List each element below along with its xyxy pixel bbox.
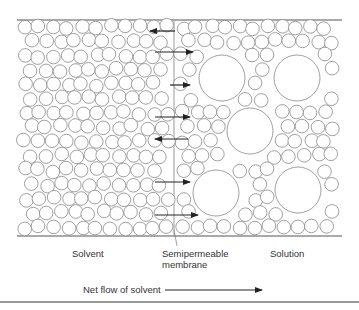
solvent-molecule <box>102 47 116 61</box>
solvent-molecule <box>119 222 133 236</box>
solvent-molecule <box>139 150 153 164</box>
solvent-molecule <box>289 21 303 35</box>
solvent-molecule <box>325 178 339 192</box>
solute-particle <box>199 55 245 101</box>
solvent-molecule <box>31 51 45 65</box>
solvent-molecule <box>191 161 205 175</box>
solvent-molecule <box>183 63 197 77</box>
solvent-molecule <box>70 150 84 164</box>
solvent-molecule <box>290 105 304 119</box>
solvent-molecule <box>233 164 247 178</box>
solvent-molecule <box>282 34 296 48</box>
membrane-label-line2: membrane <box>162 259 207 270</box>
solvent-molecule <box>124 62 138 76</box>
solvent-molecule <box>255 35 269 49</box>
solvent-molecule <box>69 64 83 78</box>
solvent-molecule <box>19 49 33 63</box>
solvent-molecule <box>45 134 59 148</box>
solvent-molecule <box>59 161 73 175</box>
solvent-molecule <box>188 135 202 149</box>
solvent-molecule <box>39 206 53 220</box>
solvent-molecule <box>318 165 332 179</box>
solvent-molecule <box>195 149 209 163</box>
solvent-molecule <box>97 177 111 191</box>
solvent-molecule <box>31 19 45 33</box>
solvent-molecule <box>39 64 53 78</box>
solvent-molecule <box>217 105 231 119</box>
solvent-molecule <box>96 121 110 135</box>
solvent-molecule <box>182 205 196 219</box>
solvent-molecule <box>174 77 188 91</box>
solvent-molecule <box>239 208 253 222</box>
solvent-molecule <box>233 221 247 235</box>
solvent-molecule <box>105 192 119 206</box>
solvent-molecule <box>291 220 305 234</box>
solvent-molecule <box>134 193 148 207</box>
solvent-molecule <box>204 134 218 148</box>
net-flow-label: Net flow of solvent <box>83 284 161 295</box>
solvent-molecule <box>55 35 69 49</box>
solvent-molecule <box>23 64 37 78</box>
solvent-molecule <box>60 106 74 120</box>
solvent-molecule <box>248 221 262 235</box>
solvent-label: Solvent <box>72 248 104 259</box>
solvent-molecule <box>90 135 104 149</box>
solvent-molecule <box>109 61 123 75</box>
solvent-molecule <box>53 65 67 79</box>
solvent-molecule <box>146 192 160 206</box>
solvent-molecule <box>97 204 111 218</box>
solvent-molecule <box>47 50 61 64</box>
solvent-molecule <box>181 120 195 134</box>
solvent-molecule <box>318 47 332 61</box>
solvent-molecule <box>59 22 73 36</box>
solvent-molecule <box>324 147 338 161</box>
solvent-molecule <box>77 107 91 121</box>
solvent-molecule <box>32 105 46 119</box>
solvent-molecule <box>133 222 147 236</box>
solvent-molecule <box>319 105 333 119</box>
solvent-molecule <box>160 18 174 32</box>
solvent-molecule <box>148 108 162 122</box>
solvent-molecule <box>18 222 32 236</box>
solvent-molecule <box>269 33 283 47</box>
solvent-molecule <box>131 78 145 92</box>
solvent-molecule <box>203 105 217 119</box>
solvent-molecule <box>75 136 89 150</box>
solvent-molecule <box>133 50 147 64</box>
solvent-molecule <box>61 49 75 63</box>
solvent-molecule <box>191 221 205 235</box>
solvent-molecule <box>90 162 104 176</box>
solvent-molecule <box>124 205 138 219</box>
solvent-molecule <box>32 192 46 206</box>
solute-particle <box>274 55 320 101</box>
solvent-molecule <box>253 178 267 192</box>
solvent-molecule <box>146 221 160 235</box>
solvent-molecule <box>20 194 34 208</box>
solvent-molecule <box>38 120 52 134</box>
solvent-molecule <box>39 150 53 164</box>
solvent-molecule <box>46 165 60 179</box>
solvent-molecule <box>133 134 147 148</box>
solvent-molecule <box>55 205 69 219</box>
solvent-molecule <box>227 36 241 50</box>
solvent-molecule <box>105 19 119 33</box>
solvent-molecule <box>276 20 290 34</box>
solvent-molecule <box>39 92 53 106</box>
solvent-molecule <box>127 34 141 48</box>
solvent-molecule <box>76 20 90 34</box>
solvent-molecule <box>260 190 274 204</box>
solvent-molecule <box>146 76 160 90</box>
solvent-molecule <box>147 20 161 34</box>
solvent-molecule <box>68 178 82 192</box>
solvent-molecule <box>197 119 211 133</box>
solvent-molecule <box>311 120 325 134</box>
solvent-molecule <box>118 136 132 150</box>
solvent-molecule <box>212 120 226 134</box>
solvent-molecule <box>210 36 224 50</box>
solvent-molecule <box>40 34 54 48</box>
solvent-molecule <box>95 93 109 107</box>
solvent-molecule <box>162 193 176 207</box>
solvent-molecule <box>127 179 141 193</box>
solvent-molecule <box>174 47 188 61</box>
solvent-molecule <box>160 47 174 61</box>
